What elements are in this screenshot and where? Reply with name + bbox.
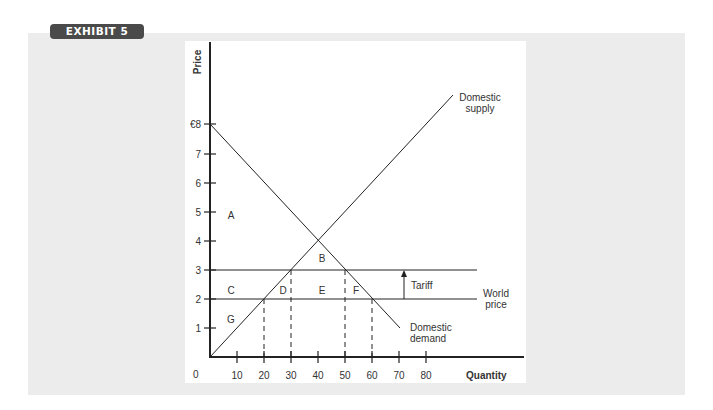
domestic-demand-curve — [210, 124, 400, 328]
region-f: F — [353, 285, 359, 296]
svg-text:50: 50 — [339, 370, 351, 381]
region-a: A — [228, 210, 235, 221]
svg-text:4: 4 — [195, 236, 201, 247]
tariff-arrow-icon — [401, 270, 407, 299]
domestic-supply-curve — [210, 95, 453, 357]
demand-label-1: Domestic — [410, 322, 452, 333]
region-c: C — [227, 285, 234, 296]
svg-text:2: 2 — [195, 294, 201, 305]
svg-text:60: 60 — [366, 370, 378, 381]
world-price-label-1: World — [483, 288, 509, 299]
demand-label-2: demand — [410, 333, 446, 344]
svg-text:30: 30 — [285, 370, 297, 381]
tariff-chart: Price Quantity 0 1 2 3 4 5 6 7 €8 10 20 … — [0, 0, 713, 410]
supply-label-2: supply — [466, 103, 495, 114]
y-tick-labels: 1 2 3 4 5 6 7 €8 — [190, 119, 202, 334]
svg-text:7: 7 — [195, 149, 201, 160]
svg-text:6: 6 — [195, 178, 201, 189]
svg-text:10: 10 — [231, 370, 243, 381]
svg-text:€8: €8 — [190, 119, 202, 130]
dashed-guides — [264, 270, 372, 357]
svg-text:1: 1 — [195, 323, 201, 334]
svg-text:70: 70 — [393, 370, 405, 381]
y-axis-label: Price — [192, 49, 203, 74]
tariff-label: Tariff — [411, 280, 433, 291]
svg-text:40: 40 — [312, 370, 324, 381]
region-d: D — [279, 285, 286, 296]
region-g: G — [227, 314, 235, 325]
world-price-label-2: price — [485, 299, 507, 310]
svg-text:5: 5 — [195, 207, 201, 218]
x-tick-labels: 10 20 30 40 50 60 70 80 — [231, 370, 432, 381]
region-b: B — [319, 253, 326, 264]
origin-label: 0 — [193, 369, 199, 380]
supply-label-1: Domestic — [459, 92, 501, 103]
region-e: E — [319, 285, 326, 296]
x-axis-label: Quantity — [466, 370, 507, 381]
svg-text:20: 20 — [258, 370, 270, 381]
svg-text:3: 3 — [195, 265, 201, 276]
svg-text:80: 80 — [420, 370, 432, 381]
